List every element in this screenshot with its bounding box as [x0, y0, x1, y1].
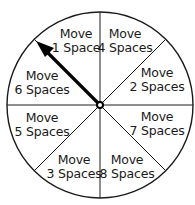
section-label-line1: Move [127, 66, 187, 80]
section-move-7-spaces: Move 7 Spaces [127, 110, 187, 138]
section-label-line2: 4 Spaces [95, 41, 155, 55]
section-label-line2: 5 Spaces [12, 125, 72, 139]
section-label-line2: 8 Spaces [97, 167, 157, 181]
section-label-line2: 7 Spaces [127, 124, 187, 138]
section-label-line1: Move [127, 110, 187, 124]
section-label-line1: Move [44, 153, 104, 167]
section-move-2-spaces: Move 2 Spaces [127, 66, 187, 94]
section-move-3-spaces: Move 3 Spaces [44, 153, 104, 181]
section-move-4-spaces: Move 4 Spaces [95, 27, 155, 55]
section-move-5-spaces: Move 5 Spaces [12, 111, 72, 139]
section-move-6-spaces: Move 6 Spaces [12, 69, 72, 97]
section-label-line1: Move [12, 69, 72, 83]
section-label-line2: 6 Spaces [12, 83, 72, 97]
section-label-line1: Move [97, 153, 157, 167]
pivot-inner [98, 103, 102, 107]
section-label-line2: 2 Spaces [127, 80, 187, 94]
section-label-line2: 3 Spaces [44, 167, 104, 181]
section-label-line1: Move [12, 111, 72, 125]
section-move-8-spaces: Move 8 Spaces [97, 153, 157, 181]
section-label-line1: Move [95, 27, 155, 41]
